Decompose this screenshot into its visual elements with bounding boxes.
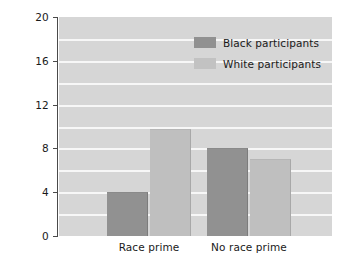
y-tick-mark — [53, 105, 58, 106]
y-tick-mark — [53, 236, 58, 237]
legend-swatch-icon — [194, 37, 216, 48]
gridline — [59, 105, 332, 107]
gridline — [59, 83, 332, 85]
gridline — [59, 170, 332, 172]
legend-swatch-icon — [194, 58, 216, 69]
y-tick-label: 16 — [9, 55, 49, 67]
y-tick-label: 20 — [9, 11, 49, 23]
bar — [207, 148, 248, 236]
bar — [107, 192, 148, 236]
gridline — [59, 127, 332, 129]
bar — [150, 129, 191, 236]
chart-legend: Black participantsWhite participants — [194, 35, 321, 71]
y-tick-mark — [53, 192, 58, 193]
x-category-label: No race prime — [211, 241, 287, 253]
y-axis-spine — [57, 17, 58, 236]
gridline — [59, 214, 332, 216]
y-tick-label: 4 — [9, 186, 49, 198]
y-tick-label: 0 — [9, 230, 49, 242]
y-tick-label: 12 — [9, 99, 49, 111]
legend-item: White participants — [194, 56, 321, 71]
legend-label: Black participants — [223, 37, 319, 49]
y-tick-mark — [53, 148, 58, 149]
plot-area: Black participantsWhite participants — [59, 17, 332, 236]
bar-chart-figure: Mean items solved 048121620 Black partic… — [0, 0, 343, 264]
gridline — [59, 192, 332, 194]
y-tick-label: 8 — [9, 142, 49, 154]
x-category-label: Race prime — [119, 241, 180, 253]
gridline — [59, 148, 332, 150]
legend-label: White participants — [223, 58, 321, 70]
y-tick-mark — [53, 61, 58, 62]
bar — [250, 159, 291, 236]
legend-item: Black participants — [194, 35, 321, 50]
y-tick-mark — [53, 17, 58, 18]
